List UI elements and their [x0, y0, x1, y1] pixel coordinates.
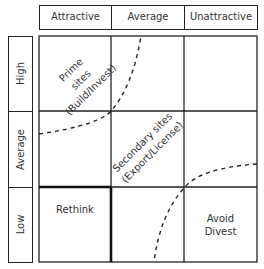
- cell-avoid-divest: Avoid Divest: [184, 212, 257, 244]
- avoid-line1: Avoid: [184, 212, 257, 225]
- avoid-line2: Divest: [184, 225, 257, 238]
- cell-rethink: Rethink: [39, 187, 111, 233]
